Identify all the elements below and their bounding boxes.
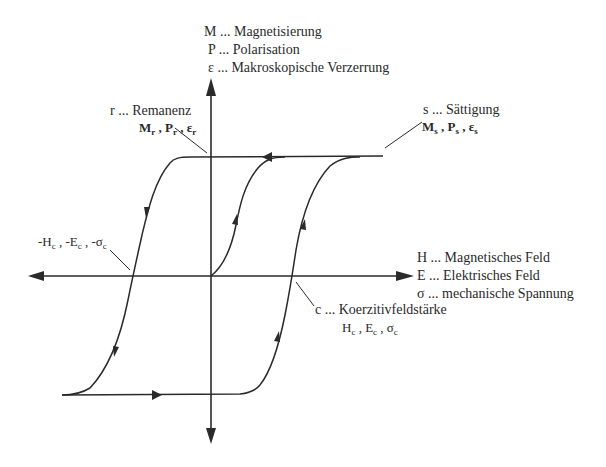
legend-polarisation: P ... Polarisation [208, 42, 300, 58]
x-axis-arrow-left-icon [28, 271, 44, 281]
saettigung-title: s ... Sättigung [423, 102, 500, 118]
neg-coercive-leader [110, 250, 130, 270]
arrow-right-icon [152, 390, 162, 400]
arrow-up-icon [232, 214, 238, 225]
symbol-neg-e: -E [65, 234, 77, 249]
separator: , [355, 320, 365, 335]
subscript: r [192, 127, 196, 137]
symbol-sigma: σ [387, 320, 394, 335]
saettigung-symbols: Ms , Ps , εs [422, 119, 478, 139]
ascending-branch [260, 157, 360, 385]
legend-magnetisches-feld: H ... Magnetisches Feld [417, 250, 550, 266]
y-axis-arrow-down-icon [206, 428, 216, 444]
subscript: s [474, 126, 478, 136]
arrow-up-icon [274, 331, 280, 342]
remanenz-title: r ... Remanenz [110, 103, 191, 119]
symbol-m: M [422, 119, 434, 134]
koerzitiv-title: c ... Koerzitivfeldstärke [315, 302, 447, 318]
separator: , [82, 234, 92, 249]
initial-curve [211, 157, 285, 276]
legend-magnetisierung: M ... Magnetisierung [204, 24, 322, 40]
saettigung-leader [385, 122, 422, 148]
remanenz-symbols: Mr , Pr , εr [139, 120, 196, 140]
x-axis-arrow-right-icon [396, 271, 414, 281]
symbol-neg-sigma: -σ [92, 234, 103, 249]
legend-mechanische-spannung: σ ... mechanische Spannung [417, 286, 574, 302]
neg-coercive-symbols: -Hc , -Ec , -σc [38, 234, 107, 254]
axes [28, 78, 414, 444]
symbol-m: M [139, 120, 151, 135]
symbol-h: H [342, 320, 351, 335]
koerzitiv-symbols: Hc , Ec , σc [342, 320, 398, 340]
legend-elektrisches-feld: E ... Elektrisches Feld [417, 268, 540, 284]
arrow-down-icon [113, 346, 119, 357]
separator: , [459, 119, 469, 134]
symbol-p: P [448, 119, 456, 134]
legend-verzerrung: ε ... Makroskopische Verzerrung [208, 60, 389, 76]
symbol-neg-h: -H [38, 234, 52, 249]
separator: , [155, 120, 165, 135]
koerzitiv-leader [296, 282, 314, 306]
subscript: c [103, 241, 107, 251]
subscript: c [394, 327, 398, 337]
separator: , [177, 120, 187, 135]
leader-lines [110, 122, 422, 306]
separator: , [56, 234, 66, 249]
symbol-e: E [365, 320, 373, 335]
separator: , [377, 320, 387, 335]
y-axis-arrow-up-icon [206, 78, 216, 96]
separator: , [438, 119, 448, 134]
symbol-p: P [165, 120, 173, 135]
descending-branch [62, 163, 170, 395]
